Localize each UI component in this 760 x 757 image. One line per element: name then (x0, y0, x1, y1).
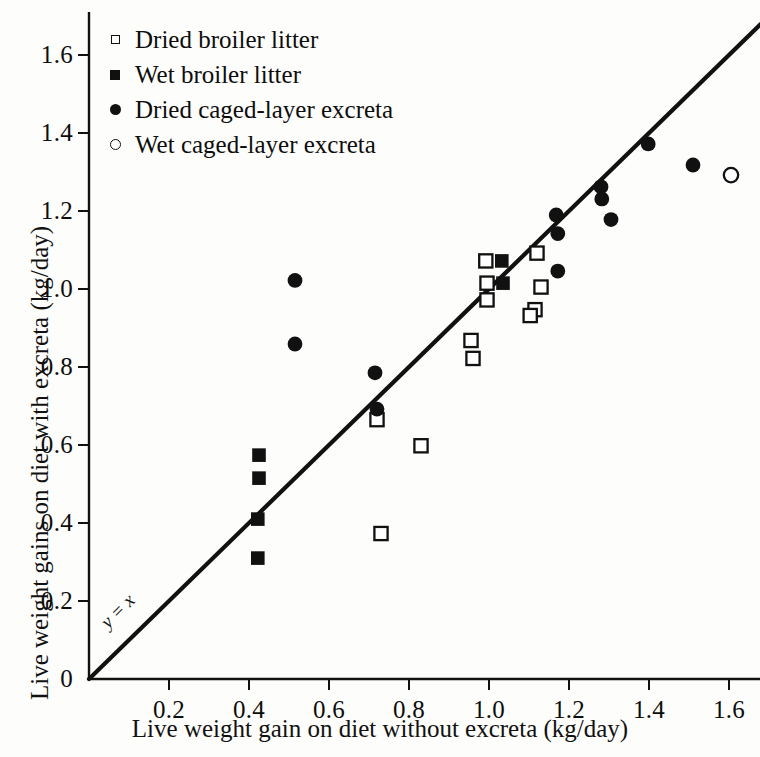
legend-item-3[interactable]: Wet caged-layer excreta (104, 127, 393, 162)
data-point-0-2 (374, 527, 387, 540)
data-point-2-10 (641, 137, 656, 152)
data-point-1-3 (251, 551, 265, 565)
x-axis-title: Live weight gain on diet without excreta… (0, 715, 760, 743)
legend-item-0[interactable]: Dried broiler litter (104, 22, 393, 57)
data-point-0-6 (480, 277, 493, 290)
data-point-0-5 (479, 254, 492, 267)
marker-glyph (110, 139, 121, 150)
legend-marker-filled-square-icon (104, 70, 126, 80)
data-point-0-9 (534, 280, 547, 293)
legend-marker-filled-circle-icon (104, 104, 126, 115)
legend-label-0: Dried broiler litter (135, 26, 318, 54)
data-point-0-7 (480, 293, 493, 306)
data-point-1-5 (496, 276, 510, 290)
data-point-0-4 (466, 352, 479, 365)
scatter-plot-figure: 0.20.40.60.81.01.21.41.600.20.40.60.81.0… (0, 0, 760, 757)
legend-label-1: Wet broiler litter (135, 61, 301, 89)
data-point-3-0 (724, 168, 738, 182)
legend-item-2[interactable]: Dried caged-layer excreta (104, 92, 393, 127)
legend-marker-open-circle-icon (104, 139, 126, 150)
data-point-2-1 (288, 337, 303, 352)
data-point-1-4 (495, 254, 509, 268)
data-point-2-9 (604, 212, 619, 227)
data-point-0-11 (524, 309, 537, 322)
data-point-0-3 (464, 334, 477, 347)
marker-glyph (111, 35, 120, 44)
data-point-1-0 (252, 448, 266, 462)
data-points-group (251, 137, 738, 565)
data-point-2-2 (368, 365, 383, 380)
legend-label-2: Dried caged-layer excreta (135, 96, 393, 124)
y-tick-label-0: 0 (60, 665, 73, 693)
data-point-0-1 (414, 439, 427, 452)
marker-glyph (110, 104, 121, 115)
legend-item-1[interactable]: Wet broiler litter (104, 57, 393, 92)
data-point-2-8 (594, 192, 609, 207)
data-point-2-6 (550, 226, 565, 241)
y-axis-title: Live weight gains on diet with excreta (… (26, 0, 56, 700)
legend-marker-open-square-icon (104, 35, 126, 44)
chart-legend: Dried broiler litterWet broiler litterDr… (104, 22, 393, 162)
data-point-2-0 (288, 273, 303, 288)
marker-glyph (110, 70, 120, 80)
data-point-2-5 (549, 208, 564, 223)
data-point-2-11 (686, 158, 701, 173)
data-point-1-1 (252, 471, 266, 485)
data-point-2-4 (550, 264, 565, 279)
data-point-1-2 (251, 512, 265, 526)
legend-label-3: Wet caged-layer excreta (135, 131, 376, 159)
data-point-2-3 (370, 402, 385, 417)
data-point-0-8 (530, 247, 543, 260)
